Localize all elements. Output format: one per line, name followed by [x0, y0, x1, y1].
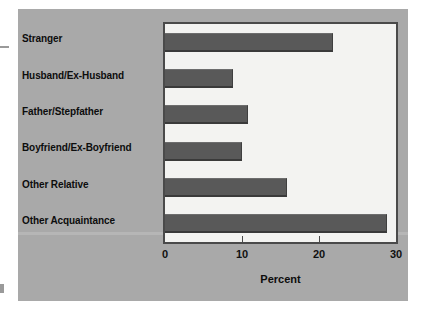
bar	[165, 178, 287, 197]
chart-page: StrangerHusband/Ex-HusbandFather/Stepfat…	[0, 0, 426, 320]
axis-tick	[242, 236, 243, 242]
bar	[165, 69, 233, 88]
x-axis-title: Percent	[163, 273, 398, 285]
bars-container	[165, 24, 396, 242]
bar	[165, 33, 333, 52]
bar	[165, 105, 248, 124]
axis-tick	[319, 236, 320, 242]
scan-artifact-bottom	[0, 284, 4, 293]
axis-tick-label: 10	[236, 248, 248, 260]
category-label: Stranger	[22, 33, 157, 44]
category-label: Father/Stepfather	[22, 106, 157, 117]
category-label: Boyfriend/Ex-Boyfriend	[22, 142, 157, 153]
figure-panel: StrangerHusband/Ex-HusbandFather/Stepfat…	[18, 9, 408, 301]
scan-artifact-top	[0, 46, 9, 48]
plot-area	[163, 22, 398, 244]
bar	[165, 142, 242, 161]
bar	[165, 214, 387, 233]
axis-tick-label: 0	[162, 248, 168, 260]
category-axis-labels: StrangerHusband/Ex-HusbandFather/Stepfat…	[18, 9, 163, 301]
category-label: Other Relative	[22, 179, 157, 190]
axis-tick-label: 20	[313, 248, 325, 260]
category-label: Other Acquaintance	[22, 215, 157, 226]
axis-tick-label: 30	[390, 248, 402, 260]
category-label: Husband/Ex-Husband	[22, 70, 157, 81]
